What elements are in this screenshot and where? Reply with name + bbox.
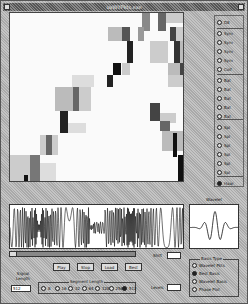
tf-cell bbox=[122, 63, 130, 75]
radio-icon[interactable] bbox=[217, 143, 222, 148]
radio-icon[interactable] bbox=[109, 286, 114, 291]
radio-icon[interactable] bbox=[217, 170, 222, 175]
wavelet-option[interactable]: Spl bbox=[217, 151, 243, 159]
tf-cell bbox=[168, 75, 184, 87]
wavelet-option-label: Sym bbox=[224, 49, 233, 54]
wavelet-option-label: Spl bbox=[224, 152, 230, 157]
wavelet-option-label: Spl bbox=[224, 161, 230, 166]
radio-icon[interactable] bbox=[217, 58, 222, 63]
radio-icon[interactable] bbox=[192, 279, 197, 284]
radio-icon[interactable] bbox=[217, 125, 222, 130]
radio-icon[interactable] bbox=[217, 67, 222, 72]
segment-length-title: Segment Length bbox=[69, 279, 104, 284]
radio-icon[interactable] bbox=[217, 134, 222, 139]
radio-icon[interactable] bbox=[217, 181, 222, 186]
wavelet-option[interactable]: Sym bbox=[217, 48, 243, 56]
tf-cell bbox=[10, 155, 32, 182]
basis-type-label: Wavelet Basis bbox=[199, 279, 227, 284]
signal-length-input[interactable]: 512 bbox=[11, 285, 31, 292]
wavelet-option[interactable]: Sym bbox=[217, 30, 243, 38]
divider bbox=[217, 74, 243, 75]
tf-cell bbox=[55, 87, 73, 111]
basis-type-option[interactable]: Wavelet Pkts bbox=[192, 263, 225, 269]
radio-icon[interactable] bbox=[217, 78, 222, 83]
wavelet-option-label: D8 bbox=[224, 20, 230, 25]
segment-length-option[interactable]: 512 bbox=[122, 286, 137, 292]
wavelet-selector-panel: D8SymSymSymSymCoifBatBatBatBatBatSplSplS… bbox=[214, 15, 244, 187]
radio-icon[interactable] bbox=[122, 286, 127, 291]
wavelet-option[interactable]: Sym bbox=[217, 39, 243, 47]
segment-length-option[interactable]: 64 bbox=[82, 286, 94, 292]
tf-cell bbox=[176, 27, 184, 41]
wavelet-option[interactable]: Bat bbox=[217, 77, 243, 85]
wavelet-option-label: Spl bbox=[224, 170, 230, 175]
basis-type-label: Phase Plot bbox=[199, 287, 220, 292]
time-frequency-plot[interactable] bbox=[9, 12, 184, 182]
radio-icon[interactable] bbox=[217, 105, 222, 110]
tf-cell bbox=[107, 75, 113, 87]
divider bbox=[217, 119, 243, 120]
radio-icon[interactable] bbox=[192, 271, 197, 276]
radio-icon[interactable] bbox=[217, 40, 222, 45]
wavelet-option-label: Coif bbox=[224, 67, 232, 72]
wavelet-option[interactable]: Spl bbox=[217, 133, 243, 141]
wavelet-option[interactable]: Spl bbox=[217, 160, 243, 168]
segment-length-option[interactable]: 8 bbox=[41, 286, 51, 292]
wavelet-option[interactable]: Bat bbox=[217, 104, 243, 112]
time-scrollbar[interactable] bbox=[9, 251, 136, 257]
radio-icon[interactable] bbox=[82, 286, 87, 291]
segment-length-option[interactable]: 128 bbox=[95, 286, 110, 292]
wavelet-option[interactable]: Bat bbox=[217, 86, 243, 94]
scrollbar-thumb[interactable] bbox=[10, 252, 17, 256]
wavelet-option[interactable]: Sym bbox=[217, 57, 243, 65]
wavelet-option[interactable]: Coif bbox=[217, 66, 243, 74]
radio-icon[interactable] bbox=[95, 286, 100, 291]
stop-button[interactable]: Stop bbox=[77, 263, 94, 271]
wavelet-option-label: Bat bbox=[224, 96, 231, 101]
shift-input[interactable] bbox=[167, 252, 181, 259]
segment-option-label: 8 bbox=[48, 286, 51, 291]
radio-icon[interactable] bbox=[192, 287, 197, 292]
wavelet-option[interactable]: D8 bbox=[217, 19, 243, 27]
tf-cell bbox=[24, 175, 28, 182]
tf-cell bbox=[113, 63, 121, 75]
window-title: uvWlfPkts.exe bbox=[3, 3, 245, 11]
basis-type-option[interactable]: Wavelet Basis bbox=[192, 279, 227, 285]
wavelet-option-label: Sym bbox=[224, 58, 233, 63]
wavelet-option[interactable]: Spl bbox=[217, 124, 243, 132]
segment-length-option[interactable]: 32 bbox=[68, 286, 80, 292]
radio-icon[interactable] bbox=[55, 286, 60, 291]
radio-icon[interactable] bbox=[68, 286, 73, 291]
wavelet-option-label: Bat bbox=[224, 78, 231, 83]
radio-icon[interactable] bbox=[217, 49, 222, 54]
radio-icon[interactable] bbox=[217, 161, 222, 166]
radio-icon[interactable] bbox=[217, 152, 222, 157]
radio-icon[interactable] bbox=[217, 20, 222, 25]
load-button[interactable]: Load bbox=[101, 263, 118, 271]
segment-length-option[interactable]: 256 bbox=[109, 286, 124, 292]
levels-input[interactable] bbox=[167, 284, 181, 291]
maximize-button[interactable] bbox=[238, 4, 244, 10]
radio-icon[interactable] bbox=[217, 31, 222, 36]
radio-icon[interactable] bbox=[41, 286, 46, 291]
radio-icon[interactable] bbox=[192, 263, 197, 268]
radio-icon[interactable] bbox=[217, 87, 222, 92]
radio-icon[interactable] bbox=[217, 96, 222, 101]
basis-type-label: Wavelet Pkts bbox=[199, 263, 225, 268]
wavelet-option[interactable]: Haar bbox=[217, 180, 243, 188]
tf-cell bbox=[180, 41, 184, 63]
best-button[interactable]: Best bbox=[125, 263, 142, 271]
tf-cell bbox=[122, 27, 130, 41]
tf-cell bbox=[150, 103, 160, 121]
wavelet-option[interactable]: Spl bbox=[217, 142, 243, 150]
wavelet-option[interactable]: Bat bbox=[217, 95, 243, 103]
wavelet-option-label: Sym bbox=[224, 40, 233, 45]
wavelet-option-label: Bat bbox=[224, 87, 231, 92]
wavelet-option-label: Spl bbox=[224, 125, 230, 130]
basis-type-option[interactable]: Best Basis bbox=[192, 271, 220, 277]
shift-label: Shift bbox=[153, 253, 162, 258]
play-button[interactable]: Play bbox=[53, 263, 70, 271]
segment-length-option[interactable]: 16 bbox=[55, 286, 67, 292]
basis-type-option[interactable]: Phase Plot bbox=[192, 287, 220, 293]
signal-waveform bbox=[9, 204, 184, 249]
